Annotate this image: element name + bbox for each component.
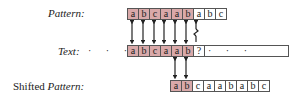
match-arrows (132, 22, 186, 77)
mismatch-arrow (194, 22, 198, 42)
comparison-arrows (0, 0, 303, 98)
